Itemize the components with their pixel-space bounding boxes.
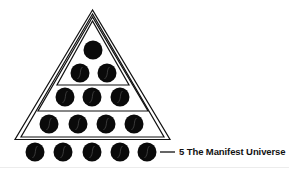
sphere: [26, 143, 45, 162]
sphere-row-3: [56, 88, 130, 107]
outer-triangle: [15, 10, 170, 140]
sphere: [111, 143, 130, 162]
callout-label-manifest-universe: 5 The Manifest Universe: [179, 146, 285, 157]
sphere: [97, 115, 116, 134]
sphere-rows: [26, 41, 157, 162]
sphere: [84, 41, 103, 60]
sphere: [125, 115, 144, 134]
sphere-row-2: [71, 64, 117, 83]
sphere: [56, 88, 75, 107]
nested-triangles: [15, 10, 170, 140]
sphere: [83, 143, 102, 162]
sphere-row-1: [84, 41, 103, 60]
sphere-row-4: [40, 115, 144, 134]
sphere: [71, 64, 90, 83]
sphere: [111, 88, 130, 107]
sphere: [138, 143, 157, 162]
sphere-row-5: [26, 143, 157, 162]
sphere: [98, 64, 117, 83]
sphere: [40, 115, 59, 134]
sphere: [83, 88, 102, 107]
sphere: [54, 143, 73, 162]
bottom-divider: [0, 167, 289, 168]
sphere: [69, 115, 88, 134]
